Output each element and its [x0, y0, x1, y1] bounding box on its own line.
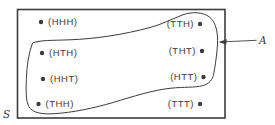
outcome-label-ttt: (TTT)	[168, 99, 194, 109]
outcome-label-htt: (HTT)	[170, 72, 197, 82]
outcome-label-tht: (THT)	[169, 46, 196, 56]
outcome-dot-ttt	[198, 102, 202, 106]
outcome-dot-tht	[200, 49, 204, 53]
outcome-label-tth: (TTH)	[167, 19, 194, 29]
outcome-dot-htt	[201, 75, 205, 79]
outcome-dot-tth	[198, 22, 202, 26]
event-a-pointer-line	[226, 40, 257, 41]
outcome-label-thh: (THH)	[46, 99, 74, 109]
sample-space-label: S	[3, 109, 10, 120]
outcome-dot-hth	[40, 51, 44, 55]
outcome-dot-thh	[36, 102, 40, 106]
event-a-label: A	[259, 35, 267, 46]
outcome-dot-hhh	[39, 20, 43, 24]
outcome-label-hth: (HTH)	[49, 48, 77, 58]
sample-space-diagram: (HHH) (HTH) (HHT) (THH) (TTH) (THT) (HTT…	[0, 0, 275, 125]
diagram-canvas	[0, 0, 275, 125]
outcome-label-hht: (HHT)	[50, 74, 78, 84]
outcome-dot-hht	[41, 77, 45, 81]
outcome-label-hhh: (HHH)	[48, 17, 77, 27]
